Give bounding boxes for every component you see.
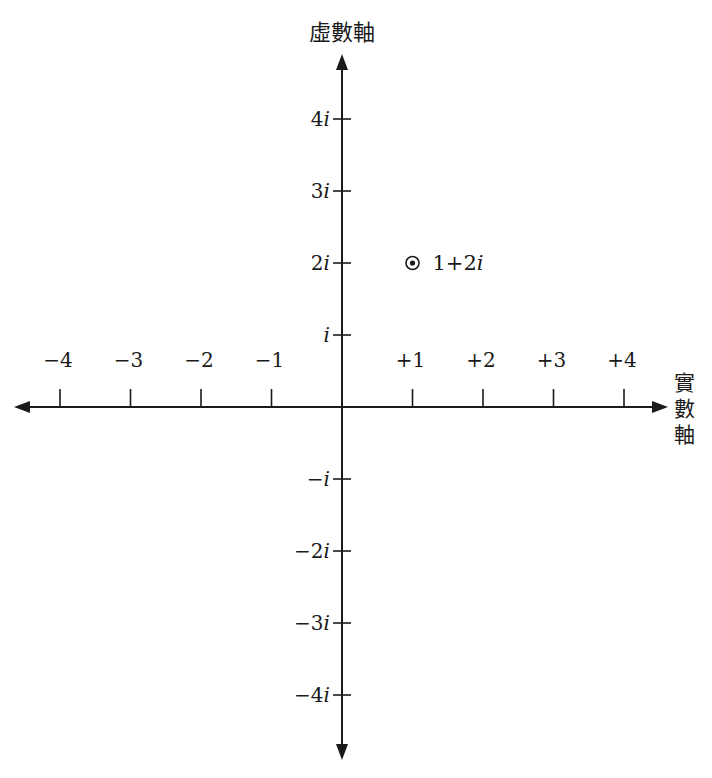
- imaginary-tick-label: −4i: [294, 683, 330, 707]
- real-axis-label-char-1: 實: [674, 371, 695, 395]
- real-tick-label: −2: [184, 348, 213, 372]
- imaginary-tick-label: 3i: [311, 179, 330, 203]
- imaginary-axis-down-arrow-icon: [336, 744, 348, 760]
- real-axis-ticks: −4−3−2−1+1+2+3+4: [43, 348, 636, 407]
- point-1-plus-2i: 1+2i: [406, 251, 484, 275]
- real-tick-label: +4: [607, 348, 636, 372]
- real-tick-label: +3: [537, 348, 566, 372]
- imaginary-tick-label: −2i: [294, 539, 330, 563]
- real-tick-label: −1: [255, 348, 284, 372]
- real-axis-left-arrow-icon: [14, 401, 30, 413]
- imaginary-tick-label: 2i: [311, 251, 330, 275]
- complex-plane-diagram: −4−3−2−1+1+2+3+4 4i3i2ii−i−2i−3i−4i 虛數軸 …: [0, 0, 712, 778]
- imaginary-tick-label: i: [324, 323, 330, 347]
- real-axis-right-arrow-icon: [652, 401, 668, 413]
- real-tick-label: −4: [43, 348, 72, 372]
- real-axis-label-char-3: 軸: [674, 423, 695, 447]
- real-tick-label: +2: [466, 348, 495, 372]
- point-dot: [410, 260, 415, 265]
- imaginary-tick-label: −i: [307, 467, 330, 491]
- point-label: 1+2i: [433, 251, 484, 275]
- real-tick-label: −3: [114, 348, 143, 372]
- imaginary-tick-label: −3i: [294, 611, 330, 635]
- real-axis-label-char-2: 數: [674, 397, 695, 421]
- imaginary-axis-label: 虛數軸: [309, 20, 375, 45]
- imaginary-axis-up-arrow-icon: [336, 54, 348, 70]
- real-tick-label: +1: [396, 348, 425, 372]
- imaginary-tick-label: 4i: [311, 107, 330, 131]
